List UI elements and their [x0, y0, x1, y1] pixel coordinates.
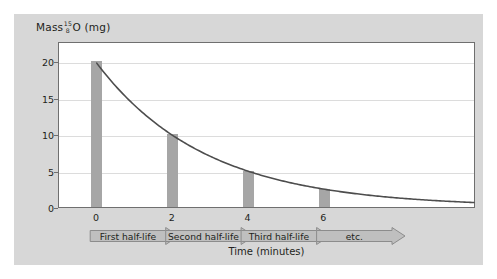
x-tick-label: 6 [320, 212, 326, 223]
y-axis-label: Mass158O (mg) [36, 21, 110, 34]
half-life-arrow-label: etc. [346, 231, 363, 242]
decay-curve [59, 43, 474, 207]
half-life-arrow-label: Third half-life [249, 231, 309, 242]
y-tick-mark [54, 208, 58, 209]
y-tick-label: 10 [32, 130, 54, 141]
y-tick-label: 0 [32, 203, 54, 214]
decay-curve-path [97, 63, 474, 202]
half-life-arrow-label: First half-life [100, 231, 156, 242]
x-axis-ticks: 0246 [58, 212, 475, 226]
y-axis-unit: (mg) [85, 21, 111, 33]
y-axis-ticks: 05101520 [30, 42, 54, 208]
decay-chart-figure: Mass158O (mg) 05101520 0246 First half-l… [0, 0, 497, 279]
y-tick-label: 5 [32, 166, 54, 177]
atomic-number: 8 [64, 28, 72, 34]
plot-area [58, 42, 475, 208]
y-tick-label: 20 [32, 57, 54, 68]
x-axis-label: Time (minutes) [58, 246, 475, 257]
plot-inner [59, 43, 474, 207]
x-tick-label: 0 [93, 212, 99, 223]
half-life-arrow-label: Second half-life [168, 231, 239, 242]
y-axis-label-prefix: Mass [36, 21, 63, 33]
x-tick-label: 2 [169, 212, 175, 223]
element-symbol: O [73, 21, 81, 33]
y-tick-label: 15 [32, 93, 54, 104]
half-life-arrow-band: First half-lifeSecond half-lifeThird hal… [58, 227, 473, 245]
isotope-notation: 158 [64, 21, 72, 34]
x-tick-label: 4 [245, 212, 251, 223]
